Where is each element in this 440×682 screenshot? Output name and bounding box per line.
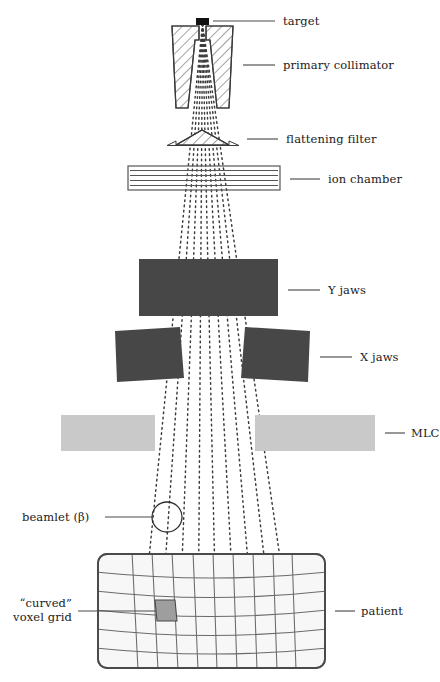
label-primary-collimator: primary collimator (283, 58, 394, 72)
x-jaws-blocks (115, 327, 310, 382)
mlc-bars (61, 415, 375, 451)
label-voxel-grid-line2: voxel grid (4, 610, 72, 624)
label-target: target (283, 14, 319, 28)
label-beamlet: beamlet (β) (22, 510, 89, 524)
mlc-bar-left (61, 415, 155, 451)
label-y-jaws: Y jaws (328, 283, 366, 297)
flattening-filter-shape (167, 126, 239, 150)
label-voxel-grid: “curved” voxel grid (4, 596, 72, 625)
target-block (196, 18, 209, 25)
label-ion-chamber: ion chamber (328, 172, 402, 186)
label-mlc: MLC (411, 426, 440, 440)
highlighted-voxel (155, 600, 177, 621)
ion-chamber-shape (128, 166, 280, 190)
x-jaw-right (241, 327, 310, 382)
label-voxel-grid-line1: “curved” (4, 596, 72, 610)
x-jaw-left (115, 327, 184, 382)
label-x-jaws: X jaws (360, 350, 399, 364)
label-patient: patient (361, 604, 403, 618)
y-jaws-block (139, 259, 278, 316)
mlc-bar-right (255, 415, 375, 451)
label-flattening-filter: flattening filter (286, 132, 377, 146)
